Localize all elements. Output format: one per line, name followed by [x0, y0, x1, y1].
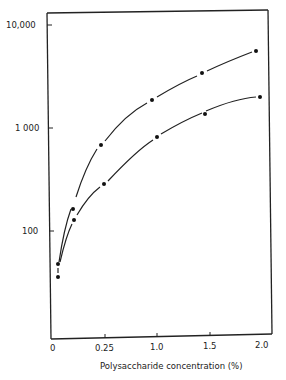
- x-tick-label: 0.25: [95, 343, 114, 353]
- x-axis-title: Polysaccharide concentration (%): [100, 361, 242, 371]
- data-point: [200, 71, 204, 75]
- plot-frame: [47, 10, 272, 339]
- chart-canvas: 10,000 1 000 100 0 0.25 1.0 1.5 2.0 Poly…: [0, 0, 286, 380]
- y-tick-label: 10,000: [6, 20, 36, 30]
- x-tick-label: 1.5: [203, 341, 217, 351]
- y-axis: 10,000 1 000 100: [6, 20, 54, 236]
- y-tick-label: 1 000: [15, 123, 39, 133]
- data-point: [258, 95, 262, 99]
- data-point: [155, 135, 159, 139]
- data-point: [102, 182, 106, 186]
- data-point: [71, 207, 75, 211]
- y-tick-label: 100: [22, 226, 38, 236]
- data-point: [56, 262, 60, 266]
- data-point: [72, 218, 76, 222]
- data-point: [99, 143, 103, 147]
- x-tick-label: 0: [50, 343, 55, 353]
- data-point: [203, 112, 207, 116]
- series-lower: [56, 95, 262, 279]
- data-point: [254, 49, 258, 53]
- x-tick-label: 2.0: [255, 340, 269, 350]
- series-upper: [56, 49, 258, 266]
- x-tick-label: 1.0: [150, 342, 164, 352]
- data-point: [56, 275, 60, 279]
- data-point: [150, 98, 154, 102]
